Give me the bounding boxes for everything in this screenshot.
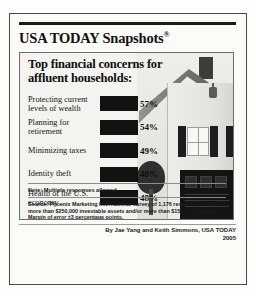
byline-credit: By Jae Yang and Keith Simmons, USA TODAY <box>105 227 236 233</box>
chart-row: Identity theft 48% <box>28 164 228 185</box>
chart-bar <box>100 120 138 135</box>
page-title: Top financial concerns for affluent hous… <box>28 58 178 85</box>
chart-bar <box>100 96 138 111</box>
brand-rule <box>19 22 236 25</box>
chart-row-label: Protecting current levels of wealth <box>28 94 96 112</box>
brand-title-text: USA TODAY Snapshots <box>19 30 164 46</box>
chart-row-value: 57% <box>140 99 158 109</box>
chart-row-value: 48% <box>140 169 158 179</box>
byline-year: 2005 <box>36 234 236 242</box>
source-text: Source: Phoenix Marketing International … <box>28 201 226 220</box>
chart-row-label: Identity theft <box>28 169 96 178</box>
note-text: Note: Multiple responses allowed <box>28 187 226 194</box>
chart-bar <box>100 167 138 182</box>
chart-row: Planning for retirement 54% <box>28 117 228 138</box>
chart-row-value: 49% <box>140 146 158 156</box>
chart-row: Minimizing taxes 49% <box>28 140 228 161</box>
note-divider <box>28 183 226 184</box>
source-divider <box>28 197 226 198</box>
snapshot-page: USA TODAY Snapshots® <box>0 0 256 296</box>
brand-title: USA TODAY Snapshots® <box>19 26 236 43</box>
byline: By Jae Yang and Keith Simmons, USA TODAY… <box>36 226 236 242</box>
chart-panel: Top financial concerns for affluent hous… <box>19 52 234 220</box>
chart-row-value: 54% <box>140 122 158 132</box>
footnote-block: Note: Multiple responses allowed Source:… <box>28 183 226 220</box>
registered-trademark-icon: ® <box>164 30 170 39</box>
chart-row-label: Planning for retirement <box>28 118 96 136</box>
chart-row-label: Minimizing taxes <box>28 146 96 155</box>
chimney-icon <box>199 57 213 79</box>
chart-bar <box>100 143 138 158</box>
byline-divider <box>19 224 236 225</box>
chart-row: Protecting current levels of wealth 57% <box>28 93 228 114</box>
